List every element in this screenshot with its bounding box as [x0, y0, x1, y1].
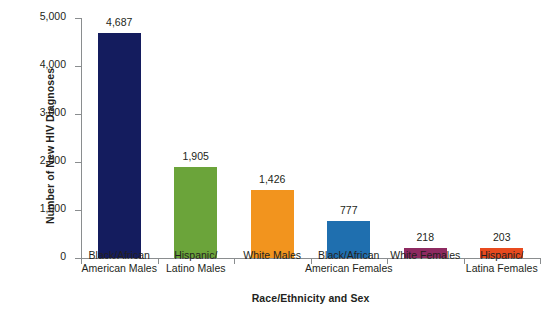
x-category-label: White Males — [228, 249, 317, 262]
bar-chart: Number of New HIV Diagnoses Race/Ethnici… — [0, 0, 558, 320]
x-category-label: Black/African American Males — [75, 249, 164, 275]
y-tick: 5,000 — [75, 18, 81, 19]
y-tick: 2,000 — [75, 162, 81, 163]
y-tick-label: 3,000 — [40, 106, 66, 118]
y-tick-mark — [75, 18, 81, 19]
y-tick: 1,000 — [75, 210, 81, 211]
x-axis-title: Race/Ethnicity and Sex — [81, 292, 540, 304]
bar[interactable]: 1,905 — [174, 167, 217, 258]
bar[interactable]: 4,687 — [98, 33, 141, 258]
y-tick-label: 4,000 — [40, 58, 66, 70]
x-category-label: White Females — [381, 249, 470, 262]
bar-value-label: 218 — [416, 231, 434, 243]
bar[interactable]: 1,426 — [251, 190, 294, 258]
y-tick-mark — [75, 162, 81, 163]
y-tick-mark — [75, 114, 81, 115]
y-tick-mark — [75, 66, 81, 67]
bar-value-label: 203 — [493, 231, 511, 243]
x-category-label: Hispanic/ Latino Males — [152, 249, 241, 275]
y-tick: 4,000 — [75, 66, 81, 67]
y-tick-label: 1,000 — [40, 202, 66, 214]
y-tick-label: 5,000 — [40, 10, 66, 22]
x-category-label: Black/African American Females — [305, 249, 394, 275]
y-tick-mark — [75, 210, 81, 211]
x-category-label: Hispanic/ Latina Females — [458, 249, 547, 275]
bar-value-label: 1,905 — [183, 150, 209, 162]
bar-value-label: 1,426 — [259, 173, 285, 185]
bar-value-label: 4,687 — [106, 16, 132, 28]
y-tick: 3,000 — [75, 114, 81, 115]
y-tick-label: 0 — [60, 250, 66, 262]
plot-area: 01,0002,0003,0004,0005,000 4,6871,9051,4… — [81, 18, 540, 258]
y-tick-label: 2,000 — [40, 154, 66, 166]
y-axis-line — [81, 18, 82, 258]
bar-value-label: 777 — [340, 204, 358, 216]
